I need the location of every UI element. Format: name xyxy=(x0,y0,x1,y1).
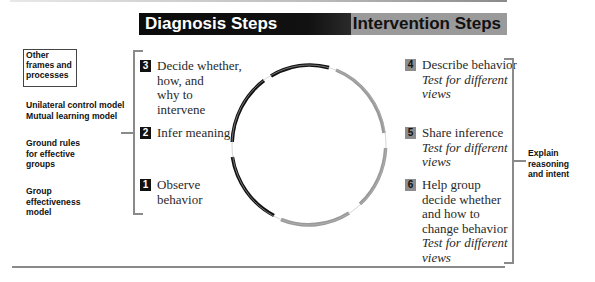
intervention-steps-header: Intervention Steps xyxy=(351,13,507,35)
ground-rules-label: Ground rules for effective groups xyxy=(26,138,86,170)
step-text-line: behavior xyxy=(157,193,202,208)
step-number-badge: 6 xyxy=(405,179,416,191)
step-number-badge: 1 xyxy=(140,179,151,191)
step-text-line: Describe behavior xyxy=(422,58,517,73)
cycle-diagram xyxy=(228,60,390,230)
diagnosis-step-3: 3 Decide whether, how, and why to interv… xyxy=(140,59,242,117)
explain-reasoning-label: Explain reasoning and intent xyxy=(528,148,588,180)
step-text-line: change behavior xyxy=(422,222,508,237)
step-text-line: and how to xyxy=(422,207,508,222)
step-number-badge: 2 xyxy=(140,127,151,139)
diagnosis-step-1: 1 Observe behavior xyxy=(140,178,202,207)
step-number-badge: 5 xyxy=(405,127,416,139)
arc-step-4 xyxy=(336,70,384,133)
step-text-line: Help group xyxy=(422,178,508,193)
intervention-bracket-tick xyxy=(514,160,526,162)
test-text-line: Test for different xyxy=(422,140,508,155)
arc-step-2 xyxy=(232,81,264,143)
step-text-line: Infer meaning xyxy=(157,126,230,141)
bottom-rule xyxy=(12,266,505,268)
other-frames-box: Other frames and processes xyxy=(23,49,77,87)
step-text-line: Share inference xyxy=(422,126,508,141)
top-rule xyxy=(10,0,507,2)
intervention-step-4: 4 Describe behavior Test for different v… xyxy=(405,58,517,102)
arc-step-5 xyxy=(360,148,386,204)
diagnosis-bracket-tick xyxy=(121,132,133,134)
mutual-learning-model: Mutual learning model xyxy=(26,111,136,122)
group-effectiveness-model-label: Group effectiveness model xyxy=(26,186,88,218)
test-text-line: views xyxy=(422,250,451,265)
intervention-step-5: 5 Share inference Test for different vie… xyxy=(405,126,508,170)
explain-label-line: Explain xyxy=(528,148,588,159)
models-label: Unilateral control model Mutual learning… xyxy=(26,100,136,121)
step-text-line: Observe xyxy=(157,178,202,193)
explain-label-line: and intent xyxy=(528,169,588,180)
step-number-badge: 4 xyxy=(405,59,416,71)
arc-step-1 xyxy=(232,157,274,216)
test-text-line: Test for different xyxy=(422,72,508,87)
diagnosis-steps-header: Diagnosis Steps xyxy=(139,13,351,35)
intervention-bracket xyxy=(504,58,514,264)
intervention-step-6: 6 Help group decide whether and how to c… xyxy=(405,178,508,265)
arc-step-3 xyxy=(271,65,329,76)
explain-label-line: reasoning xyxy=(528,159,588,170)
test-text-line: Test for different xyxy=(422,235,508,250)
test-text-line: views xyxy=(422,154,451,169)
header-bar: Diagnosis Steps Intervention Steps xyxy=(139,13,507,35)
step-text-line: decide whether xyxy=(422,193,508,208)
step-number-badge: 3 xyxy=(140,60,151,72)
unilateral-control-model: Unilateral control model xyxy=(26,100,136,111)
test-text-line: views xyxy=(422,86,451,101)
diagnosis-step-2: 2 Infer meaning xyxy=(140,126,230,141)
